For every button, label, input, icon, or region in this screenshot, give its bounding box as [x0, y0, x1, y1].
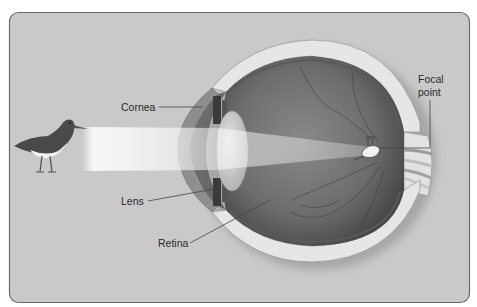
lens-label: Lens [121, 195, 144, 207]
focal-point-label-line1: Focal [418, 73, 444, 86]
focal-point-label-line2: point [418, 86, 444, 99]
light-beam-incoming [82, 127, 218, 171]
diagram-canvas [0, 0, 477, 307]
cornea-label: Cornea [121, 101, 155, 113]
retina-label: Retina [158, 237, 188, 249]
eye-focus-diagram: Cornea Lens Retina Focal point [0, 0, 477, 307]
focal-point-label: Focal point [418, 73, 444, 99]
